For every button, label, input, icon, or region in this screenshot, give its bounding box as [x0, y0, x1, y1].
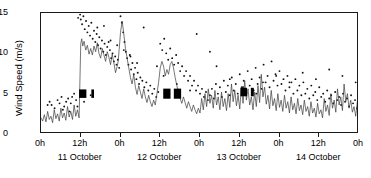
gust-point — [281, 83, 283, 85]
gust-point — [247, 70, 249, 72]
gust-point — [116, 44, 118, 46]
event-marker-bar — [91, 89, 94, 97]
gust-point — [163, 38, 165, 40]
gust-point — [341, 75, 343, 77]
y-tick-label: 5 — [0, 88, 8, 97]
gust-point — [114, 56, 116, 58]
gust-point — [76, 106, 78, 108]
gust-point — [187, 80, 189, 82]
event-marker-square — [240, 88, 247, 96]
gust-point — [85, 20, 87, 22]
gust-point — [77, 17, 79, 19]
x-tick-mark — [239, 133, 240, 137]
gust-point — [273, 80, 275, 82]
event-marker-bar — [251, 88, 254, 96]
gust-point — [287, 75, 289, 77]
gust-point — [269, 86, 271, 88]
gust-point — [183, 75, 185, 77]
gust-point — [185, 70, 187, 72]
wind-speed-figure: Wind Speed (m/s) 051015 0h12h0h12h0h12h0… — [0, 0, 371, 178]
gust-point — [259, 77, 261, 79]
gust-point — [251, 78, 253, 80]
gust-point — [88, 25, 90, 27]
event-marker-square — [174, 89, 181, 99]
gust-point — [328, 98, 330, 100]
gust-point — [63, 106, 65, 108]
gust-point — [277, 85, 279, 87]
gust-point — [93, 30, 95, 32]
gust-point — [69, 110, 71, 112]
gust-point — [73, 93, 75, 95]
x-tick-mark — [199, 133, 200, 137]
gust-point — [304, 93, 306, 95]
gust-point — [302, 72, 304, 74]
gust-point — [75, 99, 77, 101]
gust-point — [161, 49, 163, 51]
gust-point — [257, 83, 259, 85]
gust-point — [191, 85, 193, 87]
x-tick-label: 12h — [152, 138, 167, 148]
gust-point — [167, 59, 169, 61]
gust-point — [171, 57, 173, 59]
gust-point — [100, 48, 102, 50]
gust-point — [318, 86, 320, 88]
gust-point — [308, 98, 310, 100]
gust-point — [179, 70, 181, 72]
gust-point — [49, 101, 51, 103]
gust-point — [314, 91, 316, 93]
gust-point — [138, 83, 140, 85]
gust-point — [302, 81, 304, 83]
gust-point — [118, 67, 120, 69]
gust-point — [239, 73, 241, 75]
gust-point — [201, 88, 203, 90]
gust-point — [334, 91, 336, 93]
x-tick-label: 0h — [353, 138, 363, 148]
gust-point — [175, 54, 177, 56]
gust-point — [354, 99, 356, 101]
gust-point — [205, 91, 207, 93]
gust-point — [217, 93, 219, 95]
gust-point — [279, 70, 281, 72]
gust-point — [82, 15, 84, 17]
gust-point — [262, 81, 264, 83]
gust-point — [57, 99, 59, 101]
x-day-label: 13 October — [216, 152, 261, 162]
gust-point — [165, 52, 167, 54]
gust-point — [328, 69, 330, 71]
gust-point — [110, 39, 112, 41]
event-marker-square — [163, 89, 170, 99]
y-tick-label: 15 — [0, 8, 8, 17]
gust-point — [169, 48, 171, 50]
gust-point — [267, 75, 269, 77]
gust-point — [149, 85, 151, 87]
x-day-label: 14 October — [296, 152, 341, 162]
x-tick-mark — [159, 133, 160, 137]
gust-point — [86, 31, 88, 33]
gust-point — [195, 89, 197, 91]
gust-point — [151, 93, 153, 95]
gust-point — [310, 85, 312, 87]
gust-point — [143, 27, 145, 29]
gust-point — [90, 22, 92, 24]
gust-point — [265, 81, 267, 83]
gust-point — [229, 78, 231, 80]
gust-point — [237, 93, 239, 95]
gust-point — [104, 43, 106, 45]
gust-point — [81, 23, 83, 25]
gust-point — [316, 99, 318, 101]
gust-point — [137, 72, 139, 74]
gust-point — [89, 35, 91, 37]
x-tick-label: 12h — [311, 138, 326, 148]
gust-point — [215, 83, 217, 85]
gust-point — [131, 62, 133, 64]
x-day-label: 12 October — [137, 152, 182, 162]
gust-point — [120, 15, 122, 17]
wind-speed-line — [41, 21, 358, 123]
gust-point — [177, 62, 179, 64]
gust-point — [47, 104, 49, 106]
gust-point — [312, 94, 314, 96]
gust-point — [231, 77, 233, 79]
gust-point — [62, 109, 64, 111]
x-tick-label: 12h — [72, 138, 87, 148]
gust-point — [288, 81, 290, 83]
